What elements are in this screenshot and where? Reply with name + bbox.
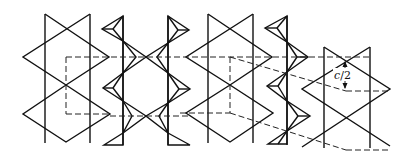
c-half-dimension: c/2 (333, 61, 353, 89)
octahedral-strip-3 (302, 47, 390, 148)
diagram-canvas: c/2 (0, 0, 406, 163)
tetrahedral-chain-2 (265, 16, 310, 145)
arrow-down-icon (343, 83, 348, 89)
tetrahedral-chain-1 (102, 16, 190, 145)
c-half-label: c/2 (334, 69, 351, 82)
